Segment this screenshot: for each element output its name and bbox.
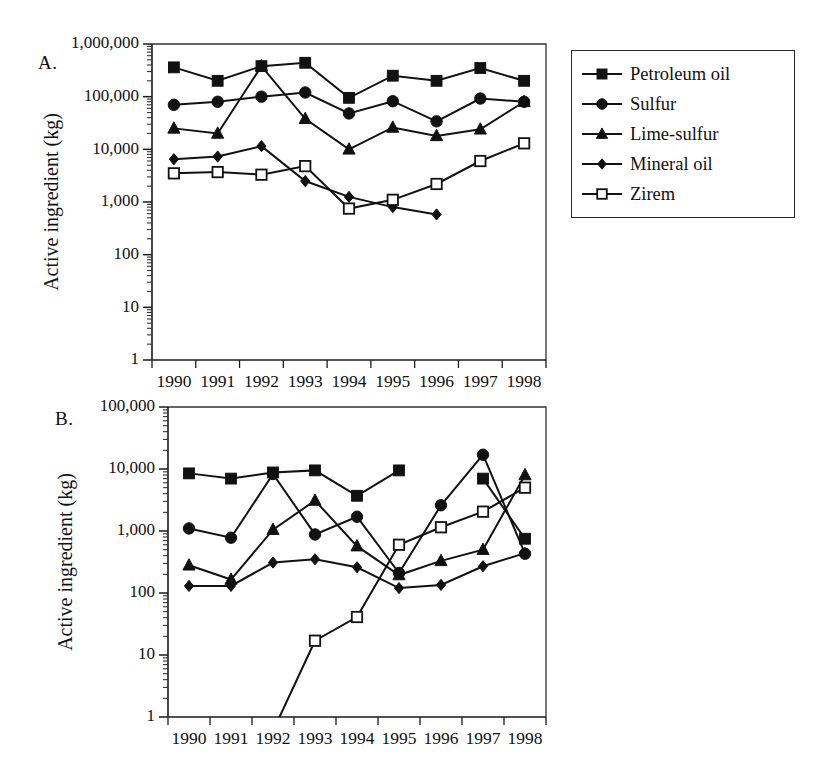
marker-open-square — [431, 179, 441, 189]
x-tick-label: 1994 — [340, 728, 375, 748]
legend-item-label: Mineral oil — [624, 154, 713, 175]
marker-diamond — [301, 175, 310, 186]
legend-marker-filled-circle — [580, 94, 624, 114]
y-tick-label: 100 — [114, 244, 140, 263]
x-tick-label: 1997 — [463, 371, 498, 391]
legend-item-label: Zirem — [624, 184, 675, 205]
x-tick-label: 1991 — [200, 371, 235, 391]
y-axis-title: Active ingredient (kg) — [54, 473, 77, 651]
legend-item-lime-sulfur[interactable]: Lime-sulfur — [580, 119, 784, 149]
marker-open-square — [520, 482, 530, 492]
marker-diamond — [213, 151, 222, 162]
marker-open-square — [519, 138, 529, 148]
legend-item-label: Lime-sulfur — [624, 124, 718, 145]
marker-open-square — [436, 522, 446, 532]
y-tick-label: 1,000,000 — [71, 33, 139, 52]
marker-open-square — [394, 540, 404, 550]
x-tick-label: 1992 — [256, 728, 291, 748]
marker-square — [478, 473, 489, 484]
legend-marker-filled-diamond — [580, 154, 624, 174]
marker-diamond — [432, 209, 441, 220]
marker-circle — [225, 532, 236, 543]
marker-diamond — [352, 562, 361, 573]
marker-diamond — [310, 554, 319, 565]
x-tick-label: 1990 — [172, 728, 207, 748]
marker-square — [352, 490, 363, 501]
marker-triangle — [168, 122, 180, 133]
x-tick-label: 1996 — [419, 371, 454, 391]
y-tick-label: 1 — [147, 706, 156, 725]
marker-diamond — [598, 159, 606, 169]
marker-open-square — [300, 161, 310, 171]
x-tick-label: 1992 — [244, 371, 279, 391]
marker-diamond — [436, 579, 445, 590]
marker-open-square — [344, 203, 354, 213]
y-tick-label: 10 — [138, 644, 155, 663]
marker-square — [597, 69, 607, 79]
x-tick-label: 1993 — [298, 728, 333, 748]
marker-circle — [435, 500, 446, 511]
x-tick-label: 1990 — [156, 371, 191, 391]
marker-square — [310, 465, 321, 476]
y-tick-label: 1,000 — [101, 191, 139, 210]
y-tick-label: 100 — [130, 582, 156, 601]
marker-circle — [256, 91, 267, 102]
panel-a: A. 1101001,00010,000100,0001,000,0001990… — [0, 0, 827, 400]
marker-triangle — [267, 523, 279, 534]
marker-circle — [309, 529, 320, 540]
marker-triangle — [474, 123, 486, 134]
marker-circle — [300, 87, 311, 98]
marker-square — [300, 57, 311, 68]
marker-circle — [387, 96, 398, 107]
marker-square — [394, 465, 405, 476]
legend-marker-open-square — [580, 184, 624, 204]
marker-square — [168, 62, 179, 73]
legend-symbol-icon — [580, 184, 624, 204]
y-tick-label: 100,000 — [100, 396, 155, 415]
x-tick-label: 1998 — [507, 371, 542, 391]
marker-diamond — [257, 141, 266, 152]
marker-circle — [477, 449, 488, 460]
y-tick-label: 10,000 — [108, 458, 155, 477]
x-tick-label: 1998 — [508, 728, 543, 748]
y-tick-label: 10,000 — [92, 139, 139, 158]
marker-open-square — [256, 169, 266, 179]
marker-triangle — [183, 559, 195, 570]
panel-b: B. 1101001,00010,000100,0001990199119921… — [0, 390, 827, 778]
x-tick-label: 1995 — [382, 728, 417, 748]
legend-symbol-icon — [580, 64, 624, 84]
marker-square — [475, 63, 486, 74]
marker-circle — [183, 523, 194, 534]
legend-symbol-icon — [580, 124, 624, 144]
marker-triangle — [477, 543, 489, 554]
marker-circle — [431, 116, 442, 127]
legend-item-label: Petroleum oil — [624, 64, 730, 85]
legend-item-sulfur[interactable]: Sulfur — [580, 89, 784, 119]
marker-square — [212, 75, 223, 86]
series-line-1 — [189, 470, 399, 495]
legend-marker-filled-triangle — [580, 124, 624, 144]
legend-item-petroleum-oil[interactable]: Petroleum oil — [580, 59, 784, 89]
y-tick-label: 1,000 — [117, 520, 155, 539]
marker-circle — [475, 93, 486, 104]
chart-b-plot: 1101001,00010,000100,0001990199119921993… — [0, 390, 827, 778]
series-group — [168, 57, 530, 220]
marker-diamond — [344, 191, 353, 202]
marker-triangle — [343, 143, 355, 154]
marker-open-square — [597, 189, 607, 199]
marker-square — [519, 75, 530, 86]
series-line-5 — [273, 488, 525, 731]
legend-marker-filled-square — [580, 64, 624, 84]
figure-root: A. 1101001,00010,000100,0001,000,0001990… — [0, 0, 827, 778]
legend-item-label: Sulfur — [624, 94, 676, 115]
marker-open-square — [310, 636, 320, 646]
marker-square — [184, 468, 195, 479]
legend-item-zirem[interactable]: Zirem — [580, 179, 784, 209]
marker-triangle — [387, 121, 399, 132]
chart-a-legend: Petroleum oilSulfurLime-sulfurMineral oi… — [571, 50, 795, 218]
legend-item-mineral-oil[interactable]: Mineral oil — [580, 149, 784, 179]
x-tick-label: 1996 — [424, 728, 459, 748]
marker-circle — [597, 99, 607, 109]
marker-open-square — [475, 156, 485, 166]
y-tick-label: 10 — [122, 297, 139, 316]
